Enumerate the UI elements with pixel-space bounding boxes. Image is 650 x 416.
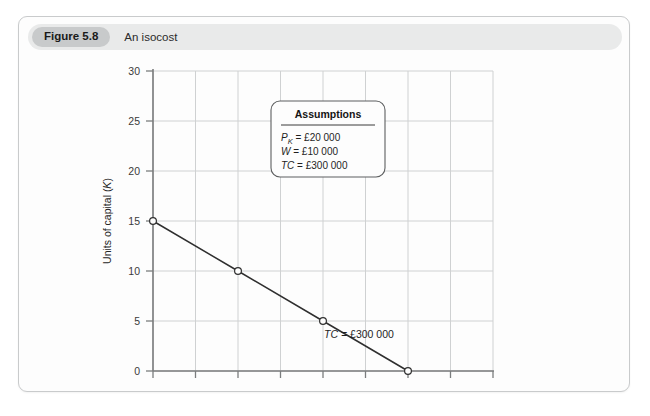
y-tick-label: 30: [128, 65, 140, 77]
chart-plot-area: 30 25 20 15 10 5 0 0 5 10 15 20 25 30 35…: [29, 55, 621, 383]
data-point-marker: [405, 368, 412, 375]
x-axis-ticks: [153, 371, 493, 378]
isocost-annotation-label: TC = £300 000: [324, 328, 394, 340]
data-point-marker: [235, 268, 242, 275]
x-tick-label: 30: [402, 382, 414, 383]
assumption-item-tc: TC = £300 000: [281, 160, 348, 171]
y-tick-label: 20: [128, 165, 140, 177]
x-tick-label: 25: [360, 382, 372, 383]
y-tick-label: 5: [134, 315, 140, 327]
x-tick-label: 35: [445, 382, 457, 383]
x-tick-label: 0: [150, 382, 156, 383]
x-tick-label: 5: [193, 382, 199, 383]
figure-number-badge: Figure 5.8: [32, 27, 110, 48]
assumptions-heading: Assumptions: [295, 108, 362, 120]
x-axis-tick-labels: 0 5 10 15 20 25 30 35 40: [150, 382, 499, 383]
isocost-chart: 30 25 20 15 10 5 0 0 5 10 15 20 25 30 35…: [29, 55, 621, 383]
figure-card: Figure 5.8 An isocost: [18, 16, 630, 392]
figure-caption-band: Figure 5.8 An isocost: [28, 24, 622, 50]
x-tick-label: 20: [317, 382, 329, 383]
data-point-marker: [320, 318, 327, 325]
assumptions-box: Assumptions PK = £20 000 W = £10 000 TC …: [271, 101, 385, 177]
y-tick-label: 15: [128, 215, 140, 227]
assumption-item-w: W = £10 000: [281, 146, 338, 157]
y-axis-title: Units of capital (K): [101, 178, 113, 264]
x-tick-label: 10: [232, 382, 244, 383]
y-axis-tick-labels: 30 25 20 15 10 5 0: [128, 65, 140, 377]
x-tick-label: 15: [275, 382, 287, 383]
y-tick-label: 10: [128, 265, 140, 277]
data-point-marker: [150, 218, 157, 225]
y-tick-label: 0: [134, 365, 140, 377]
x-tick-label: 40: [487, 382, 499, 383]
figure-title: An isocost: [124, 31, 177, 43]
y-tick-label: 25: [128, 115, 140, 127]
